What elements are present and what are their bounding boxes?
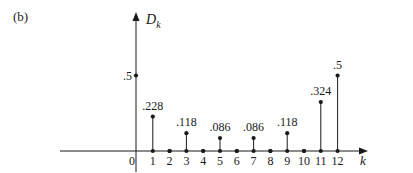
baseline-point <box>218 149 222 153</box>
point-value-label: .086 <box>243 120 264 134</box>
stem-point <box>134 73 138 77</box>
baseline-point <box>302 149 306 153</box>
stem-point <box>218 136 222 140</box>
stem-point <box>285 131 289 135</box>
baseline-point <box>151 149 155 153</box>
point-value-label: .118 <box>176 115 197 129</box>
x-tick-label: 5 <box>217 154 223 168</box>
x-tick-label: 0 <box>129 154 135 168</box>
x-tick-label: 3 <box>183 154 189 168</box>
stem-point <box>184 131 188 135</box>
x-axis-arrow-icon <box>359 148 368 155</box>
stem-point <box>151 114 155 118</box>
x-tick-label: 7 <box>251 154 257 168</box>
x-tick-label: 10 <box>298 154 310 168</box>
x-tick-label: 4 <box>200 154 206 168</box>
baseline-point <box>285 149 289 153</box>
x-tick-label: 6 <box>234 154 240 168</box>
x-tick-label: 12 <box>332 154 344 168</box>
stem-point <box>336 73 340 77</box>
x-tick-label: 8 <box>267 154 273 168</box>
baseline-point <box>235 149 239 153</box>
stem-point <box>252 136 256 140</box>
stem-plot: .5.228.118.086.086.118.324.5 01234567891… <box>0 0 413 173</box>
point-value-label: .086 <box>210 120 231 134</box>
baseline-point <box>252 149 256 153</box>
x-tick-label: 9 <box>284 154 290 168</box>
point-value-label: .324 <box>310 84 331 98</box>
x-tick-label: 2 <box>167 154 173 168</box>
point-value-label: .5 <box>123 69 132 83</box>
stem-point <box>319 100 323 104</box>
x-tick-label: 11 <box>315 154 327 168</box>
y-axis-arrow-icon <box>133 12 140 21</box>
point-value-label: .5 <box>333 58 342 72</box>
baseline-point <box>201 149 205 153</box>
baseline-point <box>268 149 272 153</box>
baseline-point <box>168 149 172 153</box>
baseline-point <box>336 149 340 153</box>
point-value-label: .118 <box>277 115 298 129</box>
point-value-label: .228 <box>142 99 163 113</box>
baseline-point <box>319 149 323 153</box>
baseline-point <box>184 149 188 153</box>
x-tick-label: 1 <box>150 154 156 168</box>
stems: .5.228.118.086.086.118.324.5 <box>123 58 342 154</box>
x-tick-labels: 0123456789101112 <box>129 154 344 168</box>
